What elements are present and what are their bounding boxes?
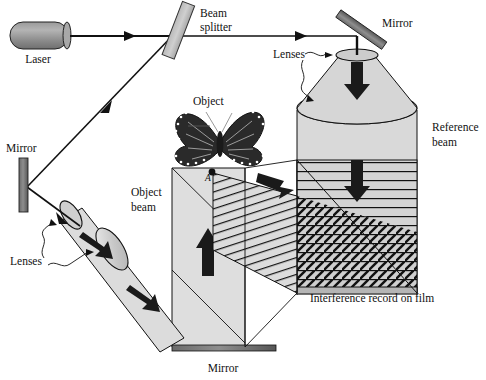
holography-diagram: Laser Beam splitter Mirror Lenses Object… xyxy=(0,0,486,380)
label-point-a: A xyxy=(204,173,211,183)
beam-arrow-down-left xyxy=(100,100,112,113)
mirror-bottom-plate xyxy=(172,345,276,351)
beam-splitter-plate xyxy=(162,1,195,59)
label-mirror-left: Mirror xyxy=(6,142,37,154)
label-mirror-bottom: Mirror xyxy=(208,362,239,374)
label-object-beam-line2: beam xyxy=(131,201,156,213)
mirror-left-plate xyxy=(19,158,28,212)
laser-tube xyxy=(10,22,68,49)
beam-splitter-group xyxy=(162,1,195,59)
label-beam-splitter-line2: splitter xyxy=(200,21,232,34)
label-mirror-top-right: Mirror xyxy=(382,17,413,29)
left-lens-cylinder-group xyxy=(56,197,184,352)
label-laser: Laser xyxy=(25,53,51,65)
label-reference-beam-line1: Reference xyxy=(432,121,479,133)
figure-canvas: Laser Beam splitter Mirror Lenses Object… xyxy=(0,0,486,380)
label-film-caption: Interference record on film xyxy=(310,292,434,304)
label-lenses-right: Lenses xyxy=(273,48,305,60)
beam-arrow-upper-right xyxy=(295,31,307,41)
butterfly-object xyxy=(175,110,266,176)
object-beam-input-cylinder xyxy=(60,208,184,352)
laser-group xyxy=(10,22,71,49)
mirror-top-right-plate xyxy=(336,10,387,49)
label-object: Object xyxy=(193,95,224,108)
label-beam-splitter-line1: Beam xyxy=(200,7,227,19)
label-lenses-left: Lenses xyxy=(10,255,42,267)
laser-aperture xyxy=(63,22,71,49)
beam-arrow-laser-right xyxy=(124,31,136,41)
label-object-beam-line1: Object xyxy=(131,186,162,199)
label-reference-beam-line2: beam xyxy=(432,136,457,148)
